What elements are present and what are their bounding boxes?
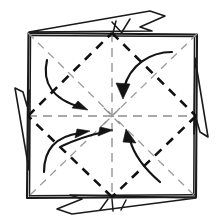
origami-diagram-figure: Origami step: square with diagonal and m… — [0, 0, 221, 224]
origami-canvas — [0, 0, 221, 224]
